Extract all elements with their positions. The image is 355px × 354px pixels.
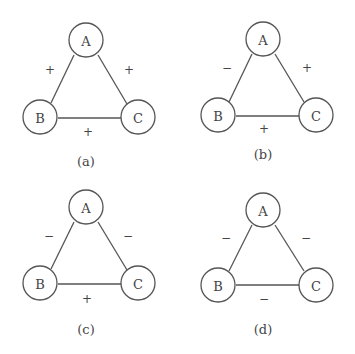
edge-bc-sign: − [259, 292, 269, 306]
panel-d: A B C − − − (d) [201, 193, 333, 337]
caption-d: (d) [254, 322, 272, 337]
node-a-label: A [257, 204, 268, 219]
edge-ac-sign: + [124, 63, 134, 77]
edge-ac [275, 54, 304, 102]
panel-a: A B C + + + (a) [23, 23, 155, 169]
node-a-label: A [257, 33, 268, 48]
panel-c: A B C − − + (c) [23, 190, 155, 337]
node-a-label: A [80, 34, 91, 49]
edge-ac-sign: − [123, 229, 133, 243]
node-c-label: C [133, 111, 143, 126]
caption-a: (a) [77, 154, 95, 169]
edge-ab-sign: − [221, 231, 231, 245]
panel-b: A B C − + + (b) [201, 22, 333, 162]
node-c-label: C [133, 277, 143, 292]
edge-ab [229, 54, 252, 102]
edge-ac [275, 225, 304, 271]
edge-ac-sign: + [302, 61, 312, 75]
edge-ab [229, 225, 252, 271]
node-c-label: C [311, 279, 321, 294]
node-b-label: B [35, 111, 45, 126]
edge-ac [98, 55, 127, 104]
edge-ab [51, 222, 74, 269]
node-b-label: B [35, 277, 45, 292]
edge-ab-sign: − [222, 61, 232, 75]
edge-bc-sign: + [259, 122, 269, 136]
node-b-label: B [213, 109, 223, 124]
node-b-label: B [213, 279, 223, 294]
signed-triangle-diagrams: A B C + + + (a) A B C − + + (b) A B C − … [0, 0, 355, 354]
caption-c: (c) [77, 322, 94, 337]
edge-bc-sign: + [83, 125, 93, 139]
node-a-label: A [80, 201, 91, 216]
edge-bc-sign: + [82, 292, 92, 306]
node-c-label: C [311, 109, 321, 124]
edge-ab-sign: − [44, 229, 54, 243]
edge-ab-sign: + [45, 63, 55, 77]
edge-ac-sign: − [301, 231, 311, 245]
caption-b: (b) [254, 147, 272, 162]
